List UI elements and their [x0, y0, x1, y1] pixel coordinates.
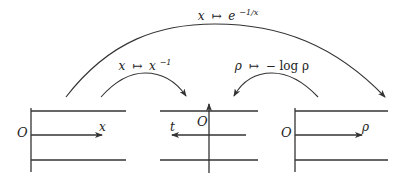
inner-left-arc-arrow [101, 73, 186, 97]
inner-left-map-label: x ↦ x −1 [119, 58, 172, 73]
map-outer: x ↦ e −1/x [66, 8, 385, 97]
map-inner-left: x ↦ x −1 [101, 58, 186, 97]
diagram-canvas: x ↦ e −1/x x ↦ x −1 ρ ↦ − log ρ O x [0, 0, 408, 181]
middle-origin-label: O [197, 114, 208, 129]
right-origin-label: O [281, 125, 292, 140]
panel-left: O x [17, 108, 126, 172]
panel-right: O ρ [281, 108, 388, 172]
middle-axis-label: t [170, 120, 175, 134]
panel-middle: O t [160, 104, 258, 173]
left-origin-label: O [17, 125, 28, 140]
right-axis-label: ρ [361, 120, 369, 134]
inner-right-arc-arrow [234, 73, 318, 97]
left-axis-label: x [99, 120, 106, 134]
inner-right-map-label: ρ ↦ − log ρ [234, 59, 309, 73]
outer-map-label: x ↦ e −1/x [198, 8, 259, 23]
map-inner-right: ρ ↦ − log ρ [234, 59, 318, 97]
outer-arc-arrow [66, 24, 385, 97]
